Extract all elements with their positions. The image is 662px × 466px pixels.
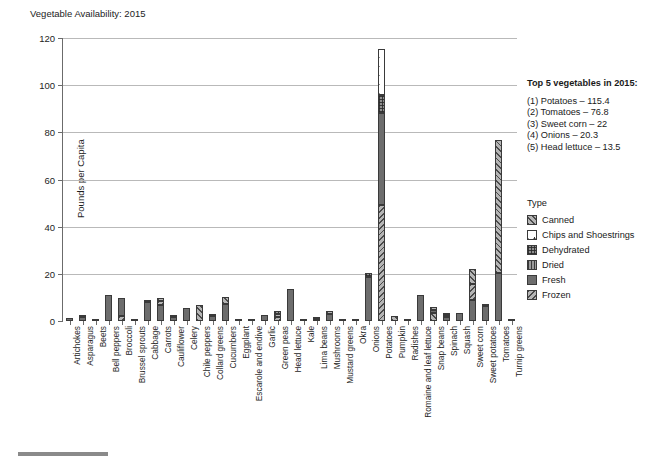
bar-series-container [63, 38, 517, 321]
y-axis-tick-label: 0 [50, 316, 55, 327]
legend-entry-label: Fresh [542, 275, 566, 285]
x-axis-label: Kale [306, 326, 316, 343]
x-axis-tick [70, 321, 71, 325]
bar-column [287, 289, 294, 321]
x-axis-label: Sweet potatoes [488, 326, 498, 383]
x-axis-tick [135, 321, 136, 325]
legend-entries: CannedChips and ShoestringsDehydratedDri… [527, 213, 659, 302]
x-axis-tick [356, 321, 357, 325]
x-axis-label: Squash [462, 326, 472, 354]
bar-column [326, 311, 333, 321]
x-axis-label: Artichokes [72, 326, 82, 365]
x-axis-tick [382, 321, 383, 325]
legend-entry-label: Canned [542, 215, 574, 225]
bar-column [196, 305, 203, 321]
bar-segment [183, 308, 190, 321]
top5-item: (3) Sweet corn – 22 [527, 119, 659, 131]
bar-column [482, 304, 489, 321]
bar-segment [495, 140, 502, 273]
y-axis-tick-label: 100 [39, 80, 55, 91]
legend-entry-label: Dehydrated [542, 245, 590, 255]
x-axis-tick [460, 321, 461, 325]
x-axis-label: Bell peppers [111, 326, 121, 372]
bar-column [456, 313, 463, 321]
x-axis-label: Potatoes [384, 326, 394, 359]
bar-segment [157, 305, 164, 321]
x-axis-tick [291, 321, 292, 325]
x-axis-tick [239, 321, 240, 325]
x-axis-label: Mushrooms [332, 326, 342, 369]
x-axis-tick [408, 321, 409, 325]
x-axis-tick [122, 321, 123, 325]
x-axis-tick [200, 321, 201, 325]
plot-area: Pounds per Capita 020406080100120 [62, 38, 517, 321]
x-axis-tick [434, 321, 435, 325]
x-axis-label: Sweet corn [475, 326, 485, 368]
x-axis-tick [226, 321, 227, 325]
legend-entry[interactable]: Frozen [527, 288, 659, 302]
x-axis-label: Tomatoes [501, 326, 511, 362]
x-axis-label: Carrots [163, 326, 173, 353]
x-axis-tick [278, 321, 279, 325]
footer-rule [18, 452, 108, 456]
legend-entry-label: Frozen [542, 290, 571, 300]
x-axis-label: Escarole and endive [254, 326, 264, 401]
x-axis-label: Onions [371, 326, 381, 352]
bar-segment [417, 295, 424, 321]
x-axis-label: Chile peppers [202, 326, 212, 377]
x-axis-label: Lima beans [319, 326, 329, 369]
y-axis-tick-label: 120 [39, 33, 55, 44]
legend-entry[interactable]: Chips and Shoestrings [527, 228, 659, 242]
bar-column [443, 313, 450, 321]
swatch-dehydrated-icon [527, 245, 537, 255]
x-axis-tick [148, 321, 149, 325]
bar-segment [326, 314, 333, 321]
bar-column [209, 314, 216, 321]
x-axis-tick [174, 321, 175, 325]
x-axis-label: Snap beans [436, 326, 446, 370]
y-axis-tick-label: 40 [44, 221, 55, 232]
x-axis-tick [304, 321, 305, 325]
x-axis-label: Romaine and leaf lettuce [423, 326, 433, 418]
bar-segment [105, 295, 112, 321]
bar-column [105, 295, 112, 321]
bar-column [430, 307, 437, 321]
bar-segment [495, 273, 502, 321]
x-axis-label: Head lettuce [293, 326, 303, 373]
y-axis-tick-label: 80 [44, 127, 55, 138]
x-axis-label: Cabbage [150, 326, 160, 360]
legend-entry[interactable]: Canned [527, 213, 659, 227]
top5-item: (5) Head lettuce – 13.5 [527, 142, 659, 154]
x-axis-label: Spinach [449, 326, 459, 356]
legend-entry[interactable]: Fresh [527, 273, 659, 287]
y-axis-tick-label: 20 [44, 268, 55, 279]
swatch-frozen-icon [527, 290, 537, 300]
top5-annotation: Top 5 vegetables in 2015: (1) Potatoes –… [527, 78, 659, 154]
x-axis-label: Broccoli [124, 326, 134, 356]
legend-entry[interactable]: Dehydrated [527, 243, 659, 257]
bar-column [378, 49, 385, 321]
legend-entry-label: Chips and Shoestrings [542, 230, 634, 240]
y-axis-tick-label: 60 [44, 174, 55, 185]
top5-heading: Top 5 vegetables in 2015: [527, 78, 659, 90]
bar-column [274, 311, 281, 321]
bar-column [222, 297, 229, 321]
bar-segment [378, 113, 385, 205]
bar-column [183, 308, 190, 321]
top5-item: (2) Tomatoes – 76.8 [527, 107, 659, 119]
x-axis-label: Pumpkin [397, 326, 407, 358]
x-axis-tick [395, 321, 396, 325]
bar-segment [196, 305, 203, 321]
bar-column [495, 140, 502, 321]
x-axis-tick [343, 321, 344, 325]
bar-segment [222, 297, 229, 304]
bar-segment [287, 289, 294, 321]
x-axis-label: Cucumbers [228, 326, 238, 368]
bar-segment [222, 304, 229, 321]
y-axis-tick [58, 321, 63, 322]
bar-segment [378, 95, 385, 114]
x-axis-label: Radishes [410, 326, 420, 361]
x-axis-tick [83, 321, 84, 325]
legend-entry[interactable]: Dried [527, 258, 659, 272]
bar-segment [469, 284, 476, 299]
